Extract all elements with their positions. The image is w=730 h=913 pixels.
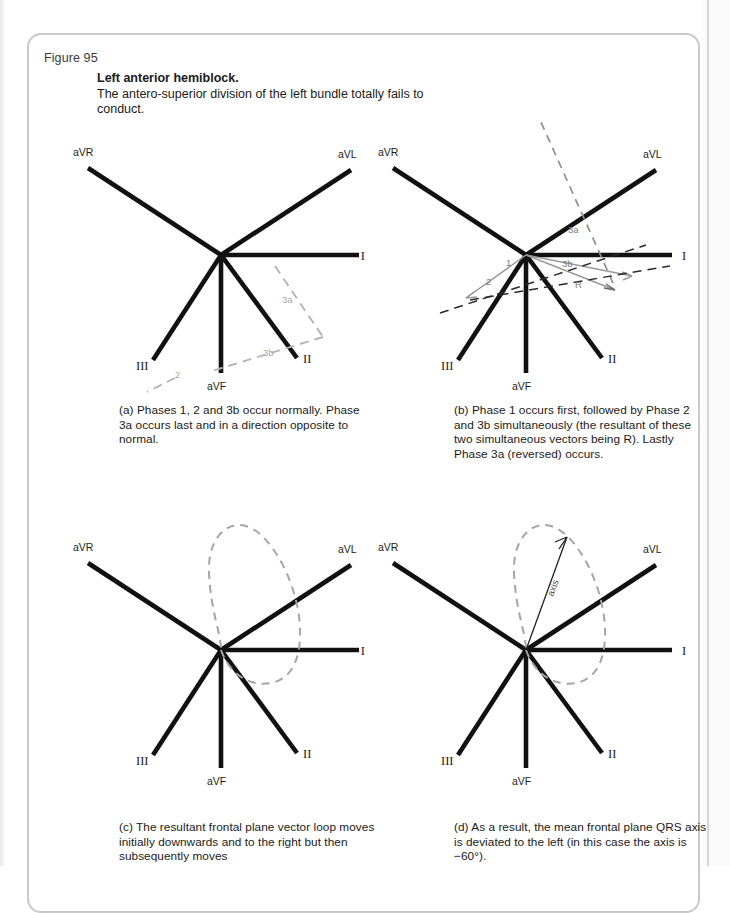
axis-avr: [393, 563, 526, 650]
axis-avr: [88, 563, 221, 650]
phase-label-2: 2: [486, 276, 491, 287]
lead-label-avf: aVF: [512, 380, 531, 392]
lead-label-ii: II: [303, 747, 311, 761]
lead-label-avf: aVF: [512, 775, 531, 787]
axis-lead-ii: [221, 650, 297, 753]
figure-title: Left anterior hemiblock. The antero-supe…: [97, 71, 427, 118]
panel-b-caption: (b) Phase 1 occurs first, followed by Ph…: [454, 403, 709, 461]
lead-label-iii: III: [136, 754, 149, 768]
lead-label-iii: III: [441, 754, 454, 768]
vector-2-arrowhead: [466, 292, 477, 298]
axis-avl: [221, 170, 351, 255]
panel-b-diagram: 3a 3b R 2 1 aVR aVL I II III aVF: [370, 120, 700, 400]
axis-avl: [526, 170, 656, 255]
axis-lead-ii: [526, 650, 602, 753]
phase-label-3b: 3b: [263, 347, 274, 358]
lead-label-i: I: [682, 249, 686, 263]
axis-label: axis: [545, 578, 561, 598]
lead-label-avr: aVR: [73, 146, 94, 158]
panel-a-diagram: 3a 3b 2 aVR aVL I II III aVF: [35, 120, 365, 400]
axis-avl: [526, 565, 656, 650]
panel-d: axis aVR aVL I II III aVF: [370, 515, 700, 795]
axis-lead-iii: [153, 255, 221, 360]
lead-label-i: I: [361, 644, 365, 658]
hexaxial-axes-a: [88, 168, 359, 373]
phase-label-3b: 3b: [562, 258, 573, 269]
phase-label-2: 2: [175, 369, 180, 380]
phase-vectors-b: [440, 120, 670, 313]
panel-d-caption: (d) As a result, the mean frontal plane …: [454, 820, 714, 864]
figure-card: Figure 95 Left anterior hemiblock. The a…: [27, 33, 700, 913]
lead-label-avl: aVL: [643, 148, 662, 160]
panel-d-diagram: axis aVR aVL I II III aVF: [370, 515, 700, 795]
axis-lead-iii: [153, 650, 221, 755]
vector-2: [147, 378, 175, 392]
phase-label-3a: 3a: [568, 224, 579, 235]
figure-title-lead: Left anterior hemiblock.: [97, 71, 239, 85]
lead-label-ii: II: [608, 352, 616, 366]
panel-c-diagram: aVR aVL I II III aVF: [35, 515, 365, 795]
lead-label-avf: aVF: [207, 380, 226, 392]
phase-label-3a: 3a: [282, 294, 293, 305]
lead-label-avr: aVR: [378, 146, 399, 158]
panel-a: 3a 3b 2 aVR aVL I II III aVF: [35, 120, 365, 400]
panel-c: aVR aVL I II III aVF: [35, 515, 365, 795]
panel-b: 3a 3b R 2 1 aVR aVL I II III aVF: [370, 120, 700, 400]
lead-label-iii: III: [136, 359, 149, 373]
phase-label-1: 1: [506, 257, 511, 268]
page-left-edge: [0, 0, 5, 866]
axis-avr: [393, 168, 526, 255]
lead-label-avl: aVL: [643, 543, 662, 555]
axis-avr: [88, 168, 221, 255]
figure-title-rest: The antero-superior division of the left…: [97, 87, 424, 117]
lead-label-avf: aVF: [207, 775, 226, 787]
phase-label-r: R: [575, 279, 582, 290]
axis-avl: [221, 565, 351, 650]
axis-lead-iii: [458, 650, 526, 755]
hexaxial-axes-b: [393, 168, 672, 373]
panel-a-caption: (a) Phases 1, 2 and 3b occur normally. P…: [119, 403, 369, 447]
lead-label-avl: aVL: [338, 543, 357, 555]
hexaxial-axes-d: [393, 563, 672, 768]
axis-lead-ii: [221, 255, 297, 358]
lead-label-avr: aVR: [73, 541, 94, 553]
lead-label-ii: II: [303, 352, 311, 366]
lead-label-i: I: [682, 644, 686, 658]
lead-label-avl: aVL: [338, 148, 357, 160]
panel-c-caption: (c) The resultant frontal plane vector l…: [119, 820, 379, 864]
lead-label-ii: II: [608, 747, 616, 761]
figure-number: Figure 95: [44, 51, 98, 65]
vector-3a: [540, 120, 613, 283]
axis-lead-iii: [458, 255, 526, 360]
lead-label-avr: aVR: [378, 541, 399, 553]
lead-label-iii: III: [441, 359, 454, 373]
lead-label-i: I: [361, 249, 365, 263]
hexaxial-axes-c: [88, 563, 359, 768]
construction-line-2: [470, 266, 670, 300]
